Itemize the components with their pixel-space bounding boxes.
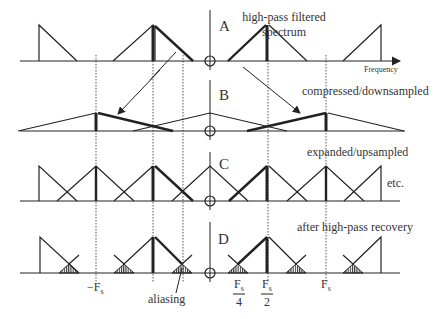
panel-label-b: B <box>219 87 229 103</box>
aliasing-label: aliasing <box>148 292 185 306</box>
caption-a-line2: spectrum <box>262 25 307 39</box>
arrow-right <box>243 67 300 113</box>
caption-a-line1: high-pass filtered <box>242 10 326 24</box>
panel-b: B compressed/downsampled <box>18 84 429 136</box>
tick-fs-over-2-num: Fs <box>262 277 272 293</box>
caption-b: compressed/downsampled <box>302 84 429 98</box>
tick-fs-over-4-num: Fs <box>234 277 244 293</box>
panel-d: D after high-pass recovery aliasing <box>20 220 413 306</box>
arrow-left <box>118 70 160 114</box>
tick-fs-over-2-den: 2 <box>264 295 270 309</box>
tick-fs-over-4-den: 4 <box>236 295 242 309</box>
tick-neg-fs: −Fs <box>87 280 104 296</box>
multirate-spectrum-diagram: A high-pass filtered spectrum Frequency … <box>0 0 441 319</box>
panel-c: C expanded/upsampled etc. <box>20 145 408 206</box>
tick-fs: Fs <box>321 277 331 293</box>
panel-label-a: A <box>219 18 230 34</box>
dotted-guides <box>96 55 326 282</box>
axis-label-frequency: Frequency <box>364 65 398 74</box>
caption-d: after high-pass recovery <box>297 220 413 234</box>
panel-label-d: D <box>218 231 229 247</box>
note-etc: etc. <box>387 176 404 190</box>
caption-c: expanded/upsampled <box>307 145 408 159</box>
panel-label-c: C <box>219 156 229 172</box>
tick-labels: −Fs Fs 4 Fs 2 Fs <box>87 277 331 309</box>
